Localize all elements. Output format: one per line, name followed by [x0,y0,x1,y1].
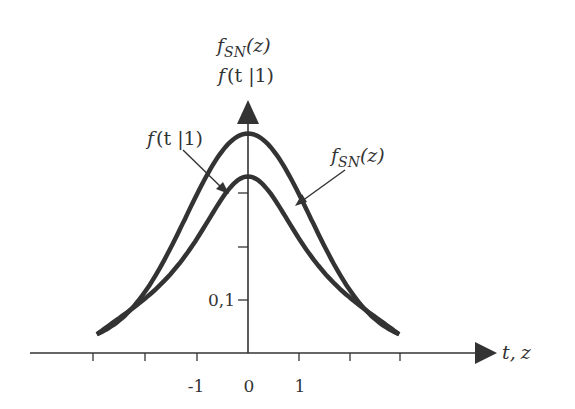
chart: fSN(z) f(t |1) f(t |1) fSN(z) 0,1 -1 0 1… [0,0,575,409]
x-tick-label-1: 1 [295,376,306,396]
x-ticks [93,353,400,361]
x-axis-title: t,z [502,341,532,363]
y-axis-title-line1: fSN(z) [215,34,271,60]
x-tick-label-minus1: -1 [188,376,205,396]
x-axis-arrow-icon [475,342,497,364]
y-tick-label-0.1: 0,1 [208,290,235,310]
y-axis-arrow-icon [237,100,259,124]
annotation-t-label: f(t |1) [145,127,203,150]
annotation-normal-label: fSN(z) [329,144,385,170]
y-axis-title-line2: f(t |1) [216,64,274,87]
annotation-normal-arrow [302,170,345,201]
x-tick-label-0: 0 [244,376,255,396]
y-ticks [238,193,248,300]
